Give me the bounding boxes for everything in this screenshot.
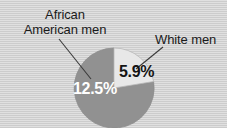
category-label-african-american-men: African American men [17, 8, 113, 37]
pie-chart-figure: African American men White men 12.5% 5.9… [0, 0, 227, 128]
value-label-white-men: 5.9% [119, 63, 154, 81]
african-american-label-line1: African [45, 7, 85, 22]
value-label-african-american-men: 12.5% [73, 80, 117, 98]
category-label-white-men: White men [155, 33, 216, 48]
african-american-label-line2: American men [24, 22, 107, 37]
